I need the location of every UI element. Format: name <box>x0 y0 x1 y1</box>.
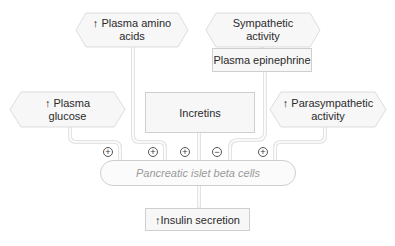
node-label-line2: activity <box>246 30 280 42</box>
plus-sign-icon-amino-acids: + <box>148 147 158 157</box>
node-label-line1: ↑ Parasympathetic <box>283 97 373 109</box>
node-plasma-epinephrine: Plasma epinephrine <box>212 48 312 72</box>
node-plasma-glucose: ↑ Plasmaglucose <box>10 92 125 127</box>
node-label-line1: ↑ Plasma <box>45 97 90 109</box>
node-parasympathetic-activity: ↑ Parasympatheticactivity <box>270 92 386 127</box>
node-insulin-secretion: ↑Insulin secretion <box>145 208 250 231</box>
plus-sign-icon-glucose: + <box>103 147 113 157</box>
node-plasma-amino-acids: ↑ Plasma aminoacids <box>76 13 188 47</box>
node-pancreatic-beta-cells: Pancreatic islet beta cells <box>100 160 296 186</box>
node-incretins: Incretins <box>145 92 255 133</box>
minus-sign-icon-epinephrine: − <box>212 147 222 157</box>
plus-sign-icon-incretins: + <box>180 147 190 157</box>
node-label-line2: acids <box>119 30 145 42</box>
node-sympathetic-activity: Sympatheticactivity <box>206 13 320 47</box>
node-label-line1: ↑ Plasma amino <box>93 17 171 29</box>
node-label: Incretins <box>179 107 221 119</box>
node-label: ↑Insulin secretion <box>155 214 240 226</box>
node-label: Plasma epinephrine <box>213 54 310 66</box>
node-label: Pancreatic islet beta cells <box>136 167 260 179</box>
plus-sign-icon-parasympathetic: + <box>258 147 268 157</box>
node-label-line1: Sympathetic <box>233 17 294 29</box>
node-label-line2: activity <box>311 110 345 122</box>
node-label-line2: glucose <box>49 110 87 122</box>
